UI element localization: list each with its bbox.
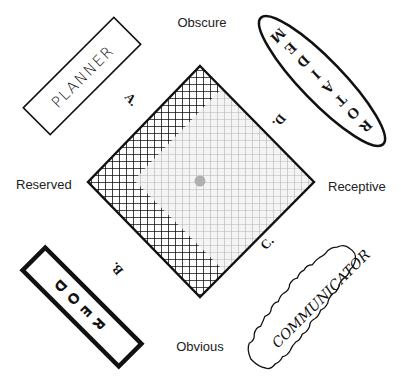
communicator-cloud: COMMUNICATOR (232, 229, 378, 375)
quadrant-label-a: A. (122, 89, 142, 108)
axis-label-right: Receptive (328, 179, 386, 194)
diamond-quadrant (88, 66, 314, 297)
diagram-canvas: Obscure Obvious Reserved Receptive A. D.… (0, 0, 401, 380)
axis-label-top: Obscure (177, 15, 226, 30)
axis-label-left: Reserved (16, 177, 72, 192)
quadrant-label-b: B. (107, 260, 126, 279)
planner-box: PLANNER (23, 17, 140, 134)
doer-box: D O E R (23, 248, 142, 367)
quadrant-label-d: D. (270, 111, 290, 130)
center-dot (195, 176, 206, 187)
axis-label-bottom: Obvious (176, 339, 224, 354)
diagram-svg: Obscure Obvious Reserved Receptive A. D.… (0, 0, 401, 380)
